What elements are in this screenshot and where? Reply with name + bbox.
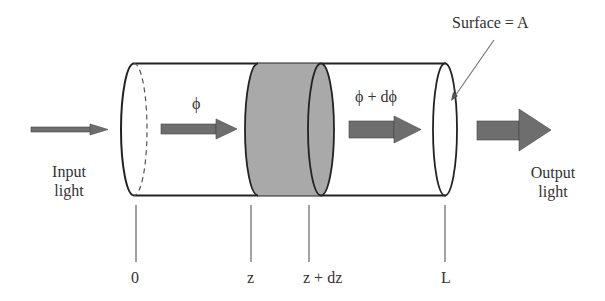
entrance-face-back-dashed xyxy=(134,64,147,196)
surface-label: Surface = A xyxy=(452,13,529,32)
input-label-line1: Input xyxy=(34,162,104,181)
slab-right-face xyxy=(308,64,334,196)
input-label-line2: light xyxy=(34,181,104,200)
surface-leader xyxy=(451,40,494,101)
flux-out-label: ϕ + dϕ xyxy=(355,87,397,106)
input-arrow xyxy=(31,124,108,135)
cylinder-diagram xyxy=(0,0,605,301)
flux-in-label: ϕ xyxy=(192,94,200,113)
axis-label-0: 0 xyxy=(131,268,139,287)
entrance-face-front xyxy=(121,64,134,196)
axis-label-z-plus-dz: z + dz xyxy=(303,268,342,287)
output-arrow xyxy=(477,109,551,151)
flux-arrow-out xyxy=(349,116,421,143)
input-light-label: Input light xyxy=(34,162,104,200)
output-label-line2: light xyxy=(513,182,593,201)
flux-arrow-in xyxy=(161,119,237,139)
output-light-label: Output light xyxy=(513,163,593,201)
axis-label-z: z xyxy=(247,268,254,287)
axis-label-L: L xyxy=(441,268,451,287)
exit-face xyxy=(433,64,457,196)
output-label-line1: Output xyxy=(513,163,593,182)
